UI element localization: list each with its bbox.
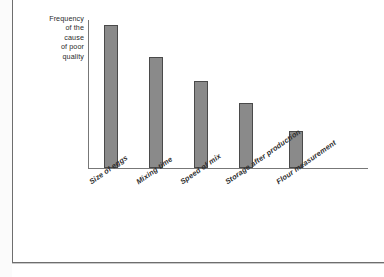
y-axis-title-line-5: quality xyxy=(22,52,84,61)
y-axis-line xyxy=(88,20,89,169)
y-axis-title-line-1: Frequency xyxy=(22,14,84,23)
bar xyxy=(104,25,118,168)
x-axis-line xyxy=(88,168,368,169)
y-axis-title-line-4: of poor xyxy=(22,42,84,51)
y-axis-title-line-2: of the xyxy=(22,23,84,32)
y-axis-title-line-3: cause xyxy=(22,33,84,42)
bar xyxy=(149,57,163,168)
plot-area: Frequency of the cause of poor quality S… xyxy=(0,0,384,277)
chart-screenshot: Frequency of the cause of poor quality S… xyxy=(0,0,384,277)
bar xyxy=(194,81,208,168)
y-axis-title: Frequency of the cause of poor quality xyxy=(22,14,84,61)
